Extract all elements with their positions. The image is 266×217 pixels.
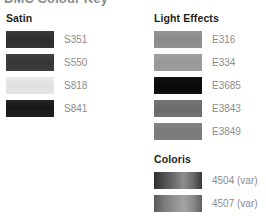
swatch-code-label: S841 bbox=[64, 103, 87, 115]
swatch-row[interactable]: E3849 bbox=[152, 120, 266, 143]
color-swatch-S550[interactable] bbox=[6, 54, 54, 71]
swatch-row[interactable]: E3843 bbox=[152, 97, 266, 120]
color-swatch-E3685[interactable] bbox=[154, 77, 202, 94]
swatch-code-label: E334 bbox=[212, 57, 235, 69]
swatch-code-label: E3849 bbox=[212, 126, 241, 138]
swatch-row[interactable]: S351 bbox=[4, 28, 144, 51]
swatch-row[interactable]: S841 bbox=[4, 97, 144, 120]
section-title-coloris: Coloris bbox=[154, 153, 266, 165]
swatch-code-label: E3843 bbox=[212, 103, 241, 115]
swatch-row[interactable]: 4504 (var) bbox=[152, 169, 266, 192]
swatch-row[interactable]: E3685 bbox=[152, 74, 266, 97]
swatch-code-label: E3685 bbox=[212, 80, 241, 92]
color-swatch-S351[interactable] bbox=[6, 31, 54, 48]
section-title-satin: Satin bbox=[6, 12, 144, 24]
swatch-code-label: S351 bbox=[64, 34, 87, 46]
section-satin: SatinS351S550S818S841 bbox=[4, 12, 144, 120]
section-coloris: Coloris4504 (var)4507 (var) bbox=[152, 153, 266, 215]
color-swatch-4507[interactable] bbox=[154, 195, 202, 212]
swatch-row[interactable]: 4507 (var) bbox=[152, 192, 266, 215]
swatch-code-label: S550 bbox=[64, 57, 87, 69]
color-swatch-S818[interactable] bbox=[6, 77, 54, 94]
section-title-light-effects: Light Effects bbox=[154, 12, 266, 24]
color-swatch-E316[interactable] bbox=[154, 31, 202, 48]
swatch-code-label: 4507 (var) bbox=[212, 198, 258, 210]
left-column: SatinS351S550S818S841 bbox=[4, 0, 144, 120]
swatch-row[interactable]: S550 bbox=[4, 51, 144, 74]
color-swatch-E3849[interactable] bbox=[154, 123, 202, 140]
color-swatch-4504[interactable] bbox=[154, 172, 202, 189]
swatch-row[interactable]: E316 bbox=[152, 28, 266, 51]
color-swatch-E3843[interactable] bbox=[154, 100, 202, 117]
swatch-code-label: 4504 (var) bbox=[212, 175, 258, 187]
color-swatch-E334[interactable] bbox=[154, 54, 202, 71]
swatch-code-label: S818 bbox=[64, 80, 87, 92]
color-swatch-S841[interactable] bbox=[6, 100, 54, 117]
swatch-code-label: E316 bbox=[212, 34, 235, 46]
section-light-effects: Light EffectsE316E334E3685E3843E3849 bbox=[152, 12, 266, 143]
swatch-row[interactable]: E334 bbox=[152, 51, 266, 74]
right-column: Light EffectsE316E334E3685E3843E3849Colo… bbox=[152, 0, 266, 215]
swatch-row[interactable]: S818 bbox=[4, 74, 144, 97]
